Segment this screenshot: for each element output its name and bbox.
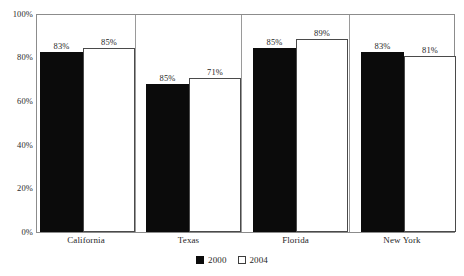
y-tick-label-100: 100% [0,10,33,19]
bar-florida-2000[interactable]: 85% [253,48,296,233]
category-label-florida: Florida [242,235,349,246]
bar-value-florida-2000: 85% [267,38,283,47]
y-tick-label-20: 20% [0,184,33,193]
legend-swatch-2000-icon [196,256,204,264]
bar-value-california-2000: 83% [54,42,70,51]
bar-california-2004[interactable]: 85% [83,48,135,233]
category-label-california: California [37,235,135,246]
bar-value-texas-2004: 71% [207,68,223,77]
bars-area: 83% 85% 85% 71% 85% 89% [37,15,454,232]
y-tick-label-0: 0% [0,228,33,237]
bar-texas-2000[interactable]: 85% [146,84,189,232]
bar-value-texas-2000: 85% [160,74,176,83]
bar-group-new-york: 83% 81% [350,15,454,232]
bar-value-new-york-2000: 83% [375,42,391,51]
bar-chart-figure: 100% 80% 60% 40% 20% 0% 83% 85% 85% 71% [0,0,464,276]
bar-value-florida-2004: 89% [314,29,330,38]
legend-swatch-2004-icon [238,256,246,264]
legend-label-2000: 2000 [208,255,226,265]
bar-new-york-2004[interactable]: 81% [404,56,456,232]
bar-value-new-york-2004: 81% [422,46,438,55]
bar-texas-2004[interactable]: 71% [189,78,241,232]
y-tick-label-60: 60% [0,97,33,106]
bar-florida-2004[interactable]: 89% [296,39,348,232]
legend-label-2004: 2004 [250,255,268,265]
y-axis: 100% 80% 60% 40% 20% 0% [0,0,33,276]
legend-item-2000[interactable]: 2000 [196,255,226,265]
x-axis-category-labels: California Texas Florida New York [37,235,454,249]
y-tick-label-40: 40% [0,141,33,150]
bar-new-york-2000[interactable]: 83% [361,52,404,232]
bar-california-2000[interactable]: 83% [40,52,83,232]
category-label-new-york: New York [350,235,454,246]
y-tick-label-80: 80% [0,53,33,62]
bar-value-california-2004: 85% [101,38,117,47]
legend-item-2004[interactable]: 2004 [238,255,268,265]
legend: 2000 2004 [0,255,464,265]
bar-group-texas: 85% 71% [136,15,241,232]
category-label-texas: Texas [136,235,241,246]
bar-group-california: 83% 85% [37,15,135,232]
bar-group-florida: 85% 89% [242,15,349,232]
